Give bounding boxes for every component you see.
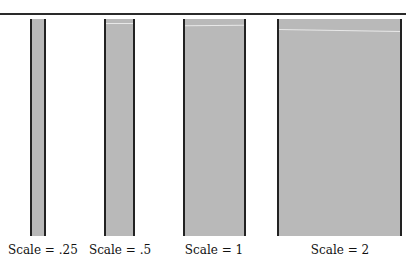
bar-scale-05 [104, 19, 135, 236]
label-scale-025: Scale = .25 [8, 243, 72, 257]
bar-scale-1 [183, 19, 246, 236]
label-scale-1: Scale = 1 [182, 243, 246, 257]
bar-highlight [106, 23, 133, 24]
label-scale-2: Scale = 2 [305, 243, 375, 257]
bar-highlight [185, 25, 244, 27]
top-rule [0, 13, 406, 15]
bar-highlight [279, 29, 400, 32]
bar-scale-025 [30, 19, 46, 236]
label-scale-05: Scale = .5 [88, 243, 152, 257]
bar-scale-2 [277, 19, 402, 236]
